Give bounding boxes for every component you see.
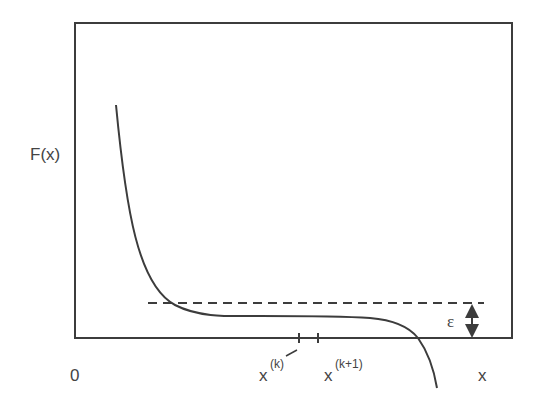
iterate-xk1-base: x: [324, 366, 333, 386]
diagram-canvas: [0, 0, 542, 412]
iterate-xk-base: x: [259, 366, 268, 386]
y-axis-label: F(x): [30, 145, 60, 165]
iterate-xk-sup: (k): [270, 357, 284, 371]
origin-label: 0: [70, 366, 79, 386]
plot-frame: [75, 23, 512, 338]
iterate-xk1-sup: (k+1): [335, 357, 363, 371]
xk-leader-line: [286, 350, 297, 356]
function-curve: [116, 105, 437, 388]
x-axis-label: x: [478, 366, 487, 386]
epsilon-double-arrow: [465, 304, 479, 338]
epsilon-label: ε: [447, 312, 454, 332]
